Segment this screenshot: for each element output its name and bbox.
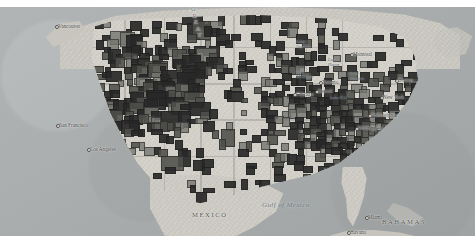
city-label: Havana — [350, 230, 366, 235]
county-polygon[interactable] — [367, 61, 378, 68]
city-label: New York — [383, 95, 404, 100]
county-polygon[interactable] — [238, 149, 248, 156]
county-polygon[interactable] — [396, 39, 403, 47]
county-polygon[interactable] — [375, 52, 387, 61]
county-polygon[interactable] — [252, 135, 261, 143]
county-polygon[interactable] — [273, 79, 285, 85]
county-polygon[interactable] — [267, 53, 274, 61]
county-polygon[interactable] — [318, 55, 326, 61]
county-polygon[interactable] — [326, 123, 332, 131]
city-label: Chicago — [296, 92, 313, 97]
city-label: Vancouver — [58, 24, 80, 29]
county-polygon[interactable] — [373, 35, 384, 41]
county-polygon[interactable] — [315, 153, 326, 162]
region-label-letter: T — [197, 32, 202, 39]
county-polygon[interactable] — [282, 117, 290, 127]
county-polygon[interactable] — [202, 167, 211, 175]
county-polygon[interactable] — [303, 166, 313, 173]
county-polygon[interactable] — [196, 148, 203, 158]
water-body-label: Gulf of Mexico — [262, 202, 310, 209]
city-label: Detroit — [318, 89, 333, 94]
city-label: Boston — [398, 78, 413, 83]
bottom-margin — [0, 236, 475, 242]
lake-label: Lake Michigan — [296, 70, 313, 79]
county-polygon[interactable] — [241, 110, 247, 117]
county-polygon[interactable] — [241, 98, 249, 104]
lake-label: Lake Ontario — [350, 72, 364, 81]
lake-label: Lake Huron — [328, 58, 339, 67]
city-label: Montreal — [353, 52, 372, 57]
county-polygon[interactable] — [167, 122, 174, 131]
county-polygon[interactable] — [219, 139, 225, 150]
county-polygon[interactable] — [224, 181, 236, 188]
county-polygon[interactable] — [159, 54, 169, 60]
county-polygon[interactable] — [138, 129, 145, 137]
county-polygon[interactable] — [225, 40, 233, 47]
city-label: Philadelphia — [371, 113, 397, 118]
county-polygon[interactable] — [239, 52, 246, 59]
lake-label: Lake Erie — [330, 96, 347, 101]
county-polygon[interactable] — [144, 147, 155, 157]
county-polygon[interactable] — [241, 179, 247, 190]
city-label: Toronto — [322, 80, 338, 85]
county-polygon[interactable] — [212, 130, 219, 138]
lake-label: Lake Superior — [296, 40, 311, 49]
county-polygon[interactable] — [196, 192, 208, 202]
county-polygon[interactable] — [96, 40, 104, 50]
region-label: GREAT — [191, 7, 202, 39]
county-polygon[interactable] — [240, 129, 246, 135]
city-label: San Francisco — [59, 123, 88, 128]
county-polygon[interactable] — [273, 97, 284, 106]
county-polygon[interactable] — [174, 127, 181, 138]
county-polygon[interactable] — [333, 40, 341, 50]
county-polygon[interactable] — [223, 68, 233, 74]
map-screenshot: VancouverMontrealTorontoDetroitChicagoBo… — [0, 0, 475, 242]
country-label: MEXICO — [192, 212, 228, 219]
county-polygon[interactable] — [339, 129, 346, 136]
country-label: BAHAMAS — [382, 219, 426, 226]
city-label: Miami — [368, 215, 382, 220]
county-polygon[interactable] — [152, 28, 161, 34]
county-polygon[interactable] — [166, 136, 174, 144]
county-polygon[interactable] — [274, 174, 286, 182]
county-polygon[interactable] — [281, 143, 289, 152]
county-polygon[interactable] — [233, 79, 241, 87]
county-polygon[interactable] — [153, 173, 162, 179]
county-polygon[interactable] — [317, 66, 329, 72]
county-polygon[interactable] — [152, 21, 162, 27]
county-polygon[interactable] — [165, 167, 176, 174]
map-canvas[interactable]: VancouverMontrealTorontoDetroitChicagoBo… — [0, 7, 475, 236]
city-label: Washington — [358, 126, 383, 131]
county-polygon[interactable] — [205, 66, 212, 76]
county-polygon[interactable] — [305, 60, 314, 66]
county-polygon[interactable] — [318, 45, 328, 54]
county-polygon[interactable] — [180, 122, 189, 133]
county-polygon[interactable] — [276, 41, 286, 50]
county-polygon[interactable] — [204, 26, 212, 37]
county-polygon[interactable] — [304, 141, 310, 149]
county-polygon[interactable] — [176, 23, 183, 31]
county-polygon[interactable] — [209, 109, 217, 119]
county-polygon[interactable] — [246, 166, 255, 176]
county-polygon[interactable] — [110, 90, 120, 98]
city-label: Los Angeles — [90, 147, 116, 152]
county-polygon[interactable] — [368, 78, 379, 87]
top-margin — [0, 0, 475, 7]
county-polygon[interactable] — [218, 72, 225, 80]
